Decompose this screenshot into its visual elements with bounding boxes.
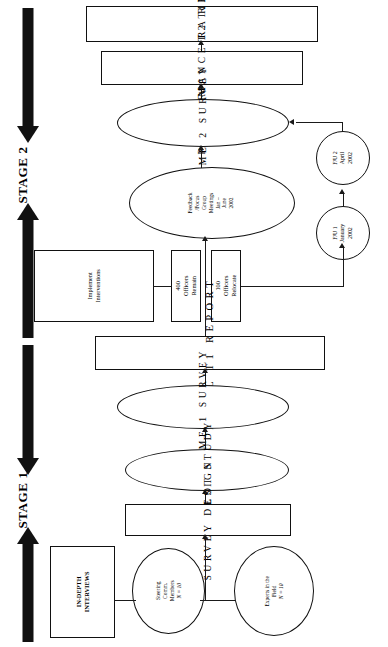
stage1-down-arrow — [10, 345, 46, 475]
node-400-officers-remain: 400 Officers Remain — [171, 250, 201, 322]
steering-line2: Comm. — [162, 581, 169, 602]
connector-line — [343, 192, 344, 206]
connector-line — [241, 286, 343, 287]
steering-line1: Steering — [155, 581, 162, 602]
node-final-t1-report: FINAL T1 REPORT — [95, 336, 325, 370]
connector-line — [343, 246, 344, 287]
node-in-depth-interviews: IN-DEPTH INTERVIEWS — [50, 546, 115, 638]
connector-line — [114, 600, 136, 601]
feedback-line7: 2002 — [229, 192, 236, 213]
connector-line — [296, 122, 343, 123]
stage1-label: STAGE 1 — [15, 470, 31, 530]
arrowhead-up-icon — [198, 145, 204, 150]
in-depth-line2: INTERVIEWS — [82, 572, 90, 613]
time2-survey-label: TIME 2 SURVEY — [197, 64, 209, 181]
connector-line — [342, 122, 343, 132]
node-time2-survey: TIME 2 SURVEY — [117, 99, 289, 147]
connector-line — [205, 536, 206, 600]
node-feedback-focus-group: Feedback /Focus Group Meetings Jan – Jun… — [129, 167, 295, 239]
fu2-line2: April — [339, 151, 346, 165]
connector-line — [153, 286, 172, 287]
arrowhead-up-icon — [339, 189, 345, 194]
node-experts-in-field: Experts in the Field N = 10 — [234, 546, 314, 636]
officers-remain-line1: 400 Officers — [174, 272, 190, 300]
arrowhead-up-icon — [202, 236, 208, 241]
node-survey-design: SURVEY DESIGN — [125, 504, 291, 536]
steering-line4: N = 10 — [175, 581, 182, 602]
experts-line3: N = 10 — [277, 576, 284, 607]
steering-line3: Members — [169, 581, 176, 602]
in-depth-line1: IN-DEPTH — [75, 572, 83, 613]
officers-relocate-line2: Relocate — [230, 272, 238, 300]
experts-line2: Field — [271, 576, 278, 607]
arrowhead-left-icon — [289, 119, 294, 125]
arrowhead-up-icon — [202, 534, 208, 539]
stage1-up-arrow — [10, 527, 46, 642]
connector-line — [201, 147, 202, 168]
experts-line1: Experts in the — [264, 576, 271, 607]
fu2-line3: 2002 — [347, 151, 354, 165]
feedback-line4: Meetings — [209, 192, 216, 213]
node-implement-interventions: Implement Interventions — [34, 250, 154, 322]
officers-remain-line2: Remain — [190, 272, 198, 300]
fu1-line2: January — [339, 224, 346, 242]
stage2-down-arrow — [10, 8, 46, 143]
fu1-line3: 2002 — [347, 224, 354, 242]
node-fu2: F/U 2 April 2002 — [316, 131, 370, 185]
fu1-line1: F/U 1 — [332, 224, 339, 242]
stage2-label: STAGE 2 — [15, 145, 31, 205]
arrowhead-up-icon — [339, 243, 345, 248]
node-steering-committee: Steering Comm. Members N = 10 — [132, 548, 205, 634]
implement-line2: Interventions — [94, 269, 102, 302]
flowchart-canvas: STAGE 2 STAGE 1 FINAL T2 REPORT PERFORMA… — [0, 0, 388, 647]
